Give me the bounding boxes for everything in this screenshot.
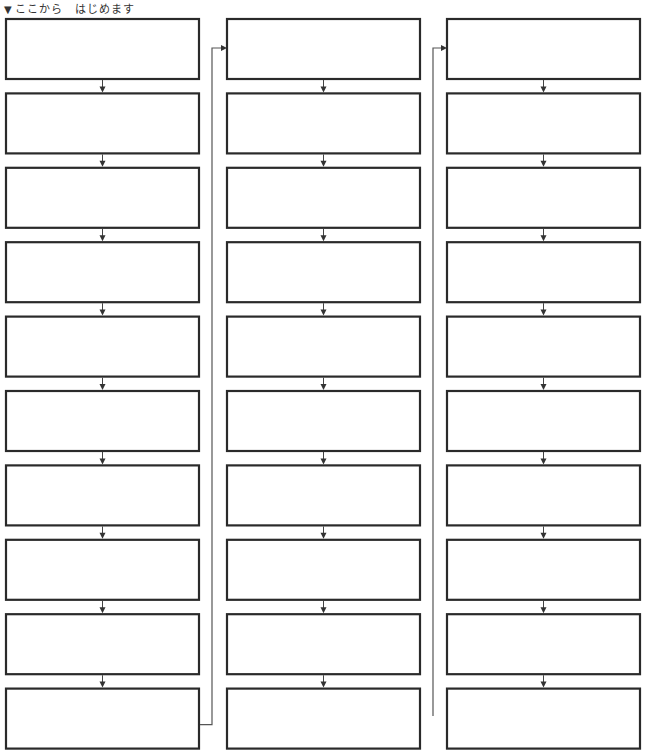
flow-box xyxy=(6,465,199,525)
flow-box xyxy=(6,614,199,674)
flow-box xyxy=(227,317,420,377)
down-arrow-icon xyxy=(541,235,547,241)
down-arrow-icon xyxy=(100,682,106,688)
flow-box xyxy=(447,93,640,153)
flow-box xyxy=(6,19,199,79)
flow-box xyxy=(6,689,199,749)
down-arrow-icon xyxy=(321,235,327,241)
flow-box xyxy=(447,540,640,600)
down-arrow-icon xyxy=(321,310,327,316)
flow-box xyxy=(227,540,420,600)
down-arrow-icon xyxy=(321,384,327,390)
down-arrow-icon xyxy=(100,161,106,167)
flow-box xyxy=(227,168,420,228)
down-arrow-icon xyxy=(321,533,327,539)
down-arrow-icon xyxy=(541,86,547,92)
flow-box xyxy=(227,614,420,674)
down-arrow-icon xyxy=(541,682,547,688)
down-arrow-icon xyxy=(541,384,547,390)
flow-box xyxy=(227,391,420,451)
flow-box xyxy=(6,242,199,302)
down-arrow-icon xyxy=(321,458,327,464)
flow-box xyxy=(447,465,640,525)
down-arrow-icon xyxy=(321,86,327,92)
column-connector xyxy=(200,48,222,725)
flow-box xyxy=(447,242,640,302)
flow-box xyxy=(227,465,420,525)
flow-box xyxy=(227,242,420,302)
flow-box xyxy=(447,391,640,451)
flow-box xyxy=(227,689,420,749)
down-arrow-icon xyxy=(541,458,547,464)
down-arrow-icon xyxy=(321,607,327,613)
flow-box xyxy=(6,168,199,228)
flow-box xyxy=(447,317,640,377)
down-arrow-icon xyxy=(321,161,327,167)
flow-box xyxy=(6,540,199,600)
flow-box xyxy=(6,93,199,153)
flow-box xyxy=(227,93,420,153)
down-arrow-icon xyxy=(100,235,106,241)
flow-box xyxy=(227,19,420,79)
down-arrow-icon xyxy=(541,310,547,316)
down-arrow-icon xyxy=(541,607,547,613)
down-arrow-icon xyxy=(100,310,106,316)
down-arrow-icon xyxy=(100,384,106,390)
down-arrow-icon xyxy=(541,161,547,167)
flow-box xyxy=(447,168,640,228)
flow-box xyxy=(6,391,199,451)
flow-box xyxy=(6,317,199,377)
down-arrow-icon xyxy=(100,458,106,464)
flow-box xyxy=(447,614,640,674)
down-arrow-icon xyxy=(100,533,106,539)
column-connector xyxy=(433,48,442,716)
down-arrow-icon xyxy=(321,682,327,688)
down-arrow-icon xyxy=(100,86,106,92)
down-arrow-icon xyxy=(100,607,106,613)
down-arrow-icon xyxy=(541,533,547,539)
flow-box xyxy=(447,19,640,79)
flowchart xyxy=(0,0,646,751)
flow-box xyxy=(447,689,640,749)
